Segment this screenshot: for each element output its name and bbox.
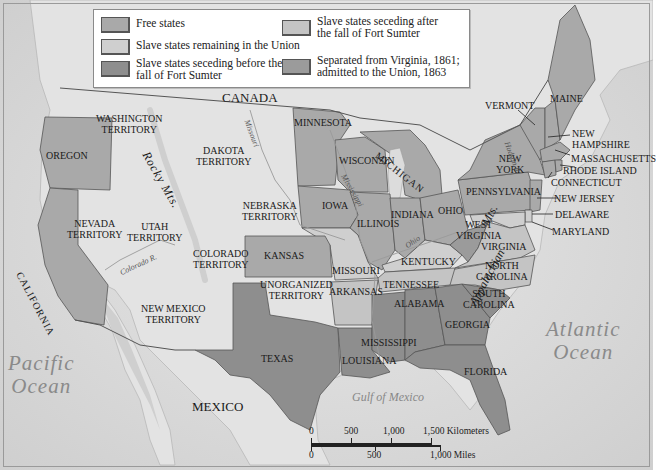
legend-swatch-west-virginia — [282, 59, 311, 75]
label-line: HAMPSHIRE — [572, 139, 630, 150]
legend-label: Slave states remaining in the Union — [136, 39, 300, 51]
legend-swatch-seceding-before — [101, 61, 130, 77]
legend-label: Free states — [136, 17, 185, 29]
legend-swatch-seceding-after — [282, 20, 311, 36]
label-line: TERRITORY — [193, 259, 249, 270]
label-rhode-island: RHODE ISLAND — [563, 165, 637, 176]
label-indiana: INDIANA — [391, 209, 434, 220]
scale-mi-0: 0 — [309, 450, 314, 460]
label-mexico: MEXICO — [192, 401, 243, 412]
label-west-virginia: WESTVIRGINIA — [456, 219, 502, 241]
label-tennessee: TENNESSEE — [383, 279, 439, 290]
label-pacific-line1: Pacific — [8, 352, 74, 375]
label-line: DAKOTA — [196, 145, 251, 156]
state-delaware — [525, 210, 532, 222]
legend-label: admitted to the Union, 1863 — [317, 66, 460, 78]
scale-km-1000: 1,000 — [383, 426, 404, 436]
label-iowa: IOWA — [322, 200, 348, 211]
scale-km-1500: 1,500 Kilometers — [423, 426, 489, 436]
label-kentucky: KENTUCKY — [401, 256, 456, 267]
legend-label: fall of Fort Sumter — [136, 69, 282, 81]
scale-mi-bar — [311, 445, 441, 447]
legend-item-free-states: Free states — [101, 17, 185, 33]
label-pennsylvania: PENNSYLVANIA — [466, 186, 541, 197]
label-new-hampshire: NEWHAMPSHIRE — [572, 128, 630, 150]
label-maryland: MARYLAND — [552, 226, 609, 237]
label-georgia: GEORGIA — [445, 319, 490, 330]
scale-km-500: 500 — [344, 426, 358, 436]
legend-swatch-free — [101, 17, 130, 33]
legend-label: Separated from Virginia, 1861; — [317, 54, 460, 66]
label-line: NEBRASKA — [242, 200, 297, 211]
label-line: TERRITORY — [67, 229, 122, 240]
label-canada: CANADA — [222, 92, 278, 103]
label-line: WASHINGTON — [96, 113, 162, 124]
label-missouri: MISSOURI — [332, 265, 380, 276]
legend-label: the fall of Fort Sumter — [317, 27, 438, 39]
scale-km-0: 0 — [309, 426, 314, 436]
label-connecticut: CONNECTICUT — [551, 177, 622, 188]
label-line: TERRITORY — [141, 314, 206, 325]
label-massachusetts: MASSACHUSETTS — [571, 153, 656, 164]
label-delaware: DELAWARE — [555, 209, 609, 220]
state-connecticut — [542, 160, 556, 178]
scale-bar: 0 500 1,000 1,500 Kilometers 0 500 1,000… — [303, 426, 493, 460]
label-minnesota: MINNESOTA — [294, 117, 352, 128]
label-line: VIRGINIA — [456, 230, 502, 241]
label-utah-territory: UTAHTERRITORY — [127, 221, 182, 243]
label-line: TERRITORY — [260, 290, 333, 301]
label-unorganized-territory: UNORGANIZEDTERRITORY — [260, 279, 333, 301]
label-line: UTAH — [127, 221, 182, 232]
label-pacific-line2: Ocean — [8, 375, 74, 398]
label-line: UNORGANIZED — [260, 279, 333, 290]
label-nevada-territory: NEVADATERRITORY — [67, 218, 122, 240]
label-mississippi: MISSISSIPPI — [361, 337, 417, 348]
label-colorado-territory: COLORADOTERRITORY — [193, 248, 249, 270]
label-dakota-territory: DAKOTATERRITORY — [196, 145, 251, 167]
label-virginia: VIRGINIA — [481, 241, 527, 252]
legend-swatch-slave-remaining — [101, 39, 130, 55]
label-arkansas: ARKANSAS — [329, 286, 383, 297]
legend-label: Slave states seceding before the — [136, 57, 282, 69]
label-vermont: VERMONT — [485, 100, 534, 111]
label-louisiana: LOUISIANA — [342, 355, 396, 366]
label-line: TERRITORY — [242, 211, 297, 222]
legend-item-slave-remaining: Slave states remaining in the Union — [101, 39, 300, 55]
label-nebraska-territory: NEBRASKATERRITORY — [242, 200, 297, 222]
label-line: NEW — [572, 128, 630, 139]
label-maine: MAINE — [550, 93, 583, 104]
label-atlantic-line2: Ocean — [546, 341, 621, 364]
label-atlantic-ocean: Atlantic Ocean — [546, 318, 621, 364]
label-new-mexico-territory: NEW MEXICOTERRITORY — [141, 303, 206, 325]
label-kansas: KANSAS — [264, 250, 304, 261]
legend-item-seceding-after: Slave states seceding after the fall of … — [282, 15, 438, 39]
label-line: NEVADA — [67, 218, 122, 229]
label-florida: FLORIDA — [464, 366, 507, 377]
label-gulf-of-mexico: Gulf of Mexico — [352, 392, 424, 403]
label-line: COLORADO — [193, 248, 249, 259]
label-ohio: OHIO — [438, 205, 463, 216]
label-pacific-ocean: Pacific Ocean — [8, 352, 74, 398]
label-line: TERRITORY — [96, 124, 162, 135]
label-alabama: ALABAMA — [394, 298, 445, 309]
label-line: NEW MEXICO — [141, 303, 206, 314]
label-line: TERRITORY — [127, 232, 182, 243]
scale-mi-1000: 1,000 Miles — [430, 450, 475, 460]
legend-label: Slave states seceding after — [317, 15, 438, 27]
label-texas: TEXAS — [261, 353, 293, 364]
label-oregon: OREGON — [46, 150, 88, 161]
legend-item-seceding-before: Slave states seceding before the fall of… — [101, 57, 282, 81]
label-washington-territory: WASHINGTONTERRITORY — [96, 113, 162, 135]
legend: Free states Slave states remaining in th… — [93, 9, 470, 88]
label-atlantic-line1: Atlantic — [546, 318, 621, 341]
state-rhode-island — [555, 160, 562, 172]
legend-item-west-virginia: Separated from Virginia, 1861; admitted … — [282, 54, 460, 78]
label-new-jersey: NEW JERSEY — [554, 193, 615, 204]
scale-mi-500: 500 — [367, 450, 381, 460]
label-line: TERRITORY — [196, 156, 251, 167]
